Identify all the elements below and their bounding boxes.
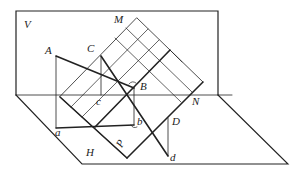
plane-p-thick-line: [170, 50, 182, 62]
label-c-upper: C: [87, 43, 94, 54]
right-angle-mark-b: [129, 82, 136, 84]
plane-p-grid-line: [126, 28, 192, 92]
label-h: H: [86, 147, 94, 158]
line-c-d: [101, 56, 168, 156]
label-b-upper: B: [140, 81, 147, 92]
plane-p-outline: [60, 18, 203, 158]
label-a-upper: A: [45, 45, 52, 56]
label-d-lower: d: [170, 152, 176, 163]
label-n: N: [192, 96, 199, 107]
geometry-figure: [0, 0, 298, 176]
label-m: M: [114, 14, 123, 25]
label-d-upper: D: [172, 116, 180, 127]
plane-p-thick-line: [95, 50, 170, 127]
label-a-lower: a: [55, 127, 61, 138]
label-c-lower: c: [96, 96, 101, 107]
label-b-lower: b: [137, 116, 143, 127]
label-v: V: [24, 19, 31, 30]
diagram-canvas: V M A C B c N b D a P H d: [0, 0, 298, 176]
